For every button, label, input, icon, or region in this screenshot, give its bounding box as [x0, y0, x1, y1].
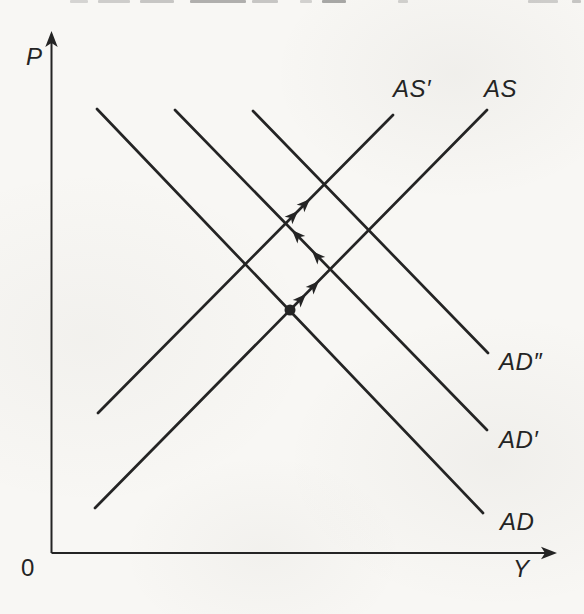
origin-label: 0 [21, 555, 34, 581]
figure: P 0 Y AS′ AS AD″ AD′ AD [0, 0, 584, 614]
scan-artifact [322, 0, 346, 3]
label-as-prime: AS′ [393, 76, 431, 102]
equilibrium-dot [285, 305, 296, 316]
scan-artifact [98, 0, 130, 3]
scan-artifact [300, 0, 312, 3]
scan-artifact [70, 0, 88, 3]
scan-artifact [572, 0, 581, 3]
label-as: AS [484, 76, 517, 102]
scan-artifact [140, 0, 174, 3]
scan-artifact [190, 0, 246, 3]
label-ad: AD [500, 509, 534, 535]
curve-AD-double-prime [253, 111, 488, 353]
label-ad-double-prime: AD″ [499, 349, 542, 375]
label-ad-prime: AD′ [499, 427, 538, 453]
scan-artifact [528, 0, 558, 3]
y-axis-label: P [26, 44, 43, 70]
x-axis-label: Y [513, 556, 530, 582]
scan-artifact [398, 0, 408, 3]
scan-artifact [252, 0, 278, 3]
